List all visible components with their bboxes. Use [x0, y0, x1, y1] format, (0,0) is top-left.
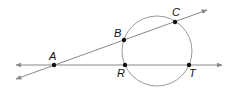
secant-line-abc	[16, 10, 207, 79]
point-label-t: T	[189, 67, 197, 79]
point-label-r: R	[117, 67, 125, 79]
point-b	[122, 38, 126, 42]
point-label-c: C	[172, 6, 180, 18]
geometry-diagram: ABCRT	[0, 0, 227, 91]
point-label-a: A	[48, 50, 56, 62]
point-c	[173, 20, 177, 24]
circle	[122, 16, 192, 86]
point-label-b: B	[114, 27, 121, 39]
point-a	[52, 63, 56, 67]
